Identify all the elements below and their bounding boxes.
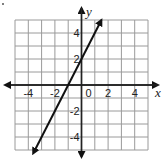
coordinate-plane: -4-202442-2-4 x y xyxy=(0,0,165,161)
x-axis-label: x xyxy=(154,85,161,100)
y-tick-label: -2 xyxy=(70,105,80,117)
x-tick-label: 4 xyxy=(132,87,138,99)
bullet-dot xyxy=(2,3,4,5)
x-tick-label: 0 xyxy=(86,87,92,99)
y-axis-label: y xyxy=(84,4,92,19)
y-tick-label: 4 xyxy=(73,27,79,39)
x-tick-label: -2 xyxy=(50,87,60,99)
x-tick-label: 2 xyxy=(105,87,111,99)
x-tick-label: -4 xyxy=(23,87,33,99)
y-tick-label: -4 xyxy=(70,131,80,143)
